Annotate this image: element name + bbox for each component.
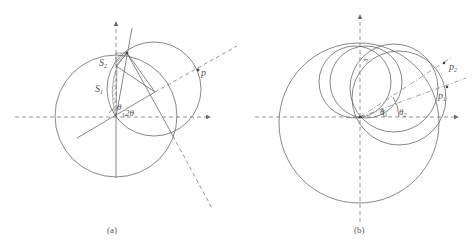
angle-arc-2theta	[123, 113, 124, 117]
chord-s2-mid	[116, 66, 155, 92]
label-theta: θ	[117, 102, 122, 112]
caption-a: (a)	[107, 225, 117, 235]
point-p1	[446, 86, 449, 89]
point-top-a	[126, 52, 129, 55]
figure-b: S θ1 θ2 p1 p2 (b)	[255, 15, 466, 235]
label-s2: S2	[99, 57, 107, 69]
label-s1: S1	[95, 83, 103, 95]
theta-line-dashed	[155, 46, 237, 92]
origin-b	[358, 115, 361, 118]
label-theta2: θ2	[399, 107, 406, 118]
label-p1: p1	[437, 90, 446, 102]
label-s-b: S	[362, 56, 371, 64]
dashed-extension-a	[173, 136, 213, 210]
figure-a: S2 S1 θ 2θ p (a)	[15, 22, 237, 235]
label-p2: p2	[448, 61, 457, 73]
chord-t-mid	[127, 53, 155, 92]
caption-b: (b)	[354, 225, 365, 235]
label-2theta: 2θ	[125, 108, 135, 118]
label-theta1: θ1	[380, 107, 387, 118]
label-p: p	[200, 67, 206, 78]
diagram-canvas: S2 S1 θ 2θ p (a) S θ1 θ2 p1 p2	[0, 0, 474, 247]
point-p2	[443, 62, 446, 65]
point-p	[197, 69, 200, 72]
